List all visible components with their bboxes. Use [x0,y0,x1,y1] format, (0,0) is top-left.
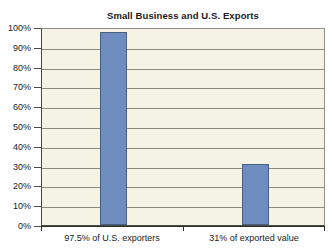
y-axis-tick [34,127,41,128]
chart-title: Small Business and U.S. Exports [41,10,325,21]
y-axis-label: 0% [0,221,31,231]
y-axis-tick [34,107,41,108]
x-axis-tick [41,226,42,231]
plot-area [41,28,325,226]
y-axis-tick [34,68,41,69]
y-axis-label: 20% [0,181,31,191]
y-axis-tick [34,48,41,49]
y-axis-label: 80% [0,63,31,73]
gridline [42,88,324,89]
y-axis-tick [34,186,41,187]
y-axis-tick [34,147,41,148]
y-axis-label: 70% [0,82,31,92]
y-axis-label: 60% [0,102,31,112]
bar [100,32,127,225]
x-axis-tick [324,226,325,231]
y-axis-label: 100% [0,23,31,33]
y-axis-label: 40% [0,142,31,152]
y-axis-label: 90% [0,43,31,53]
y-axis-tick [34,87,41,88]
y-axis-label: 50% [0,122,31,132]
gridline [42,187,324,188]
gridline [42,148,324,149]
x-axis-tick [183,226,184,231]
x-axis-label: 97.5% of U.S. exporters [41,233,183,243]
y-axis-tick [34,28,41,29]
gridline [42,168,324,169]
gridline [42,69,324,70]
y-axis-label: 10% [0,201,31,211]
y-axis-label: 30% [0,162,31,172]
y-axis-tick [34,167,41,168]
gridline [42,108,324,109]
x-axis-label: 31% of exported value [183,233,325,243]
bar [242,164,269,225]
gridline [42,207,324,208]
y-axis-tick [34,226,41,227]
gridline [42,128,324,129]
y-axis-tick [34,206,41,207]
gridline [42,49,324,50]
bar-chart: Small Business and U.S. Exports 100%90%8… [0,0,333,252]
